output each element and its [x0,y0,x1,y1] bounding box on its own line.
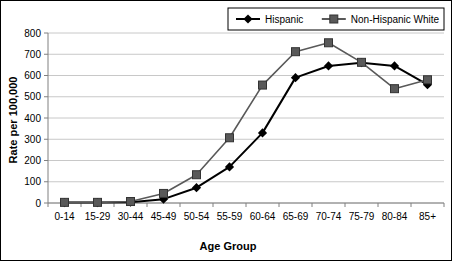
data-point-marker [226,134,234,142]
x-axis-tick-label: 15-29 [85,211,111,222]
data-point-marker [259,81,267,89]
y-axis-tick-labels: 0100200300400500600700800 [24,28,41,209]
legend-items: HispanicNon-Hispanic White [236,14,440,25]
y-axis-tick-label: 0 [35,198,41,209]
y-axis-tick-label: 600 [24,70,41,81]
data-point-marker [160,189,168,197]
x-axis-tick-label: 45-49 [151,211,177,222]
data-point-marker [424,76,432,84]
x-axis-tick-label: 75-79 [349,211,375,222]
x-axis-tick-label: 60-64 [250,211,276,222]
data-point-marker [358,58,366,66]
y-axis-tick-label: 800 [24,28,41,39]
y-axis-tick-label: 700 [24,49,41,60]
data-point-marker [325,39,333,47]
x-axis-tick-label: 0-14 [54,211,74,222]
data-point-marker [193,171,201,179]
legend-marker-square [330,15,338,23]
x-axis-tick-label: 65-69 [283,211,309,222]
data-point-marker [391,85,399,93]
legend-label: Non-Hispanic White [351,14,440,25]
y-axis-tick-label: 500 [24,91,41,102]
chart-legend: HispanicNon-Hispanic White [228,8,444,30]
x-axis-tick-label: 50-54 [184,211,210,222]
x-axis-tick-label: 80-84 [382,211,408,222]
y-axis-tick-label: 100 [24,176,41,187]
chart-container: 0100200300400500600700800 0-1415-2930-44… [0,0,452,261]
line-chart: 0100200300400500600700800 0-1415-2930-44… [0,0,452,261]
data-point-marker [61,198,69,206]
x-axis-title: Age Group [200,240,257,252]
data-point-marker [94,198,102,206]
y-axis-tick-label: 400 [24,113,41,124]
legend-label: Hispanic [265,14,303,25]
data-point-marker [127,198,135,206]
y-axis-tick-label: 300 [24,134,41,145]
y-axis-title: Rate per 100,000 [7,77,19,164]
x-axis-tick-label: 70-74 [316,211,342,222]
y-axis-tick-label: 200 [24,155,41,166]
x-axis-tick-label: 55-59 [217,211,243,222]
data-point-marker [292,48,300,56]
x-axis-tick-label: 30-44 [118,211,144,222]
x-axis-tick-label: 85+ [419,211,436,222]
